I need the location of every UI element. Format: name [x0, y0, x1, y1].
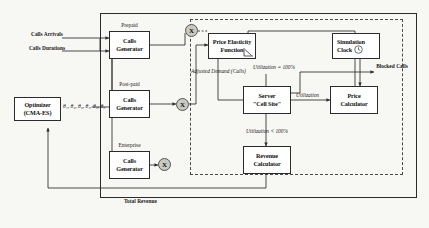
multiplier-enterprise[interactable]: X [158, 158, 171, 171]
multiplier-prepaid[interactable]: X [185, 24, 198, 37]
calls-generator-enterprise[interactable]: Calls Generator [109, 151, 150, 179]
calls-generator-prepaid[interactable]: Calls Generator [109, 31, 150, 59]
label-calls-durations: Calls Durations [28, 45, 66, 51]
calls-generator-postpaid[interactable]: Calls Generator [109, 90, 150, 118]
segment-label-prepaid: Prepaid [109, 22, 150, 28]
elasticity-curve-icon [243, 47, 254, 58]
diagram-canvas: Calls Arrivals Calls Durations Optimizer… [0, 0, 429, 228]
price-calculator-box[interactable]: Price Calculator [330, 86, 378, 114]
clock-icon [354, 45, 363, 54]
revenue-calculator-box[interactable]: Revenue Calculator [243, 146, 291, 174]
label-blocked-calls: Blocked Calls [376, 63, 408, 69]
label-adjusted-demand: Adjusted Demand (Calls) [191, 68, 221, 74]
label-total-revenue: Total Revenue [124, 198, 157, 204]
server-cell-site-box[interactable]: Server "Cell Site" [243, 86, 291, 114]
label-utilization: Utilization [296, 92, 319, 98]
optimizer-parameters: θ₁, θ₂, θ₃, θ₄, θ₅, θ₆ [63, 103, 105, 109]
label-utilization-partial: Utilization < 100% [246, 128, 288, 134]
segment-label-enterprise: Enterprise [107, 142, 152, 148]
label-utilization-full: Utilization = 100% [253, 64, 295, 70]
multiplier-postpaid[interactable]: X [176, 98, 189, 111]
label-calls-arrivals: Calls Arrivals [30, 31, 64, 37]
optimizer-box[interactable]: Optimizer (CMA-ES) [14, 97, 61, 121]
simulation-clock-box[interactable]: Simulation Clock [332, 33, 380, 59]
segment-label-postpaid: Post-paid [109, 81, 150, 87]
